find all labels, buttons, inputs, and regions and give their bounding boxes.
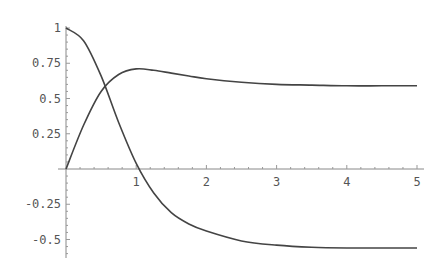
y-tick-label: -0.5 — [32, 233, 61, 247]
x-tick-label: 1 — [133, 175, 140, 189]
falling-curve — [66, 28, 417, 248]
y-tick-label: -0.25 — [25, 197, 61, 211]
chart: 12345 10.750.50.25-0.25-0.5 — [0, 0, 439, 271]
rising-curve — [66, 69, 417, 169]
y-tick-label: 0.25 — [32, 127, 61, 141]
y-tick-label: 0.5 — [39, 92, 61, 106]
y-axis: 10.750.50.25-0.25-0.5 — [25, 21, 70, 258]
x-axis: 12345 — [58, 165, 424, 189]
x-tick-label: 4 — [343, 175, 350, 189]
x-tick-label: 5 — [413, 175, 420, 189]
y-tick-label: 1 — [54, 21, 61, 35]
y-tick-label: 0.75 — [32, 56, 61, 70]
x-tick-label: 3 — [273, 175, 280, 189]
x-tick-label: 2 — [203, 175, 210, 189]
